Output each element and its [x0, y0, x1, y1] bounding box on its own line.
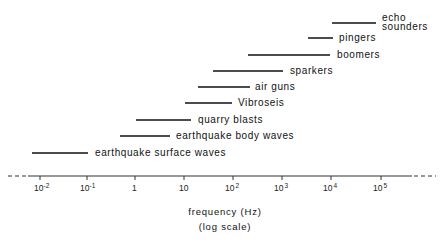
- tick-1: 1: [132, 183, 137, 193]
- frequency-range-chart: 10-2 10-1 1 10 102 103 104 105 frequency…: [0, 0, 444, 244]
- label-sounders: sounders: [382, 21, 428, 32]
- label-earthquake-body-waves: earthquake body waves: [176, 130, 294, 141]
- x-axis-sublabel: (log scale): [199, 221, 252, 232]
- tick-1e2: 102: [225, 182, 239, 193]
- tick-1e3: 103: [274, 182, 288, 193]
- label-boomers: boomers: [337, 49, 380, 60]
- label-quarry-blasts: quarry blasts: [198, 114, 263, 125]
- x-axis-label: frequency (Hz): [188, 206, 262, 217]
- tick-10: 10: [179, 183, 189, 193]
- tick-1e4: 104: [323, 182, 337, 193]
- label-earthquake-surface-waves: earthquake surface waves: [95, 147, 226, 158]
- label-vibroseis: Vibroseis: [238, 97, 284, 108]
- tick-1e5: 105: [373, 182, 387, 193]
- label-sparkers: sparkers: [290, 65, 333, 76]
- label-air-guns: air guns: [255, 81, 295, 92]
- label-pingers: pingers: [339, 32, 376, 43]
- x-axis: 10-2 10-1 1 10 102 103 104 105 frequency…: [8, 176, 436, 232]
- tick-1e-2: 10-2: [34, 182, 50, 193]
- tick-1e-1: 10-1: [80, 182, 96, 193]
